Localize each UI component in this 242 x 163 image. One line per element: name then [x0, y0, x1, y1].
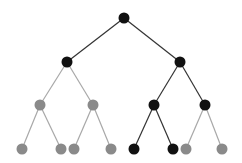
tree-node	[106, 144, 117, 155]
tree-edge	[180, 62, 205, 105]
tree-edge	[74, 105, 93, 149]
tree-edge	[67, 18, 124, 62]
tree-edge	[205, 105, 222, 149]
tree-node	[56, 144, 67, 155]
tree-edge	[134, 105, 154, 149]
tree-node	[35, 100, 46, 111]
tree-edge	[93, 105, 111, 149]
tree-edge	[154, 62, 180, 105]
tree-edge	[67, 62, 93, 105]
tree-node	[119, 13, 130, 24]
tree-node	[181, 144, 192, 155]
tree-diagram	[0, 0, 242, 163]
tree-node	[175, 57, 186, 68]
tree-node	[62, 57, 73, 68]
tree-edge	[22, 105, 40, 149]
tree-edge	[40, 105, 61, 149]
tree-edges	[22, 18, 222, 149]
tree-edge	[154, 105, 173, 149]
tree-node	[217, 144, 228, 155]
tree-node	[17, 144, 28, 155]
tree-edge	[124, 18, 180, 62]
tree-node	[88, 100, 99, 111]
tree-node	[168, 144, 179, 155]
tree-node	[149, 100, 160, 111]
tree-nodes	[17, 13, 228, 155]
tree-edge	[40, 62, 67, 105]
tree-node	[69, 144, 80, 155]
tree-edge	[186, 105, 205, 149]
tree-node	[129, 144, 140, 155]
tree-node	[200, 100, 211, 111]
